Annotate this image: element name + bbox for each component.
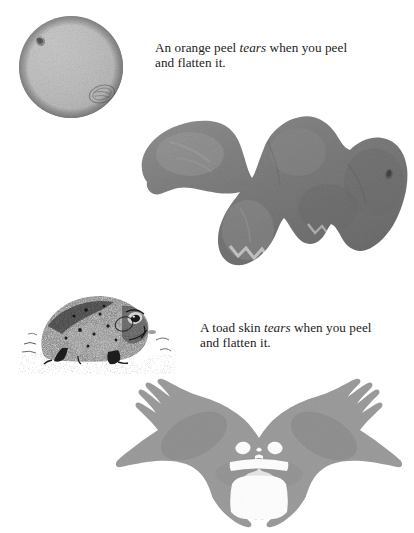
- orange-caption: An orange peel tears when you peel and f…: [155, 40, 347, 70]
- toad-caption-line2: and flatten it.: [200, 335, 271, 350]
- orange-caption-emphasis: tears: [240, 40, 267, 55]
- toad-body: [32, 290, 162, 368]
- flattened-toad-skin-image: [104, 378, 414, 530]
- orange-caption-prefix: An orange peel: [155, 40, 240, 55]
- toad-caption-suffix: when you peel: [291, 320, 372, 335]
- orange-caption-line2: and flatten it.: [155, 55, 226, 70]
- toad-caption: A toad skin tears when you peel and flat…: [200, 320, 372, 350]
- toad-caption-emphasis: tears: [264, 320, 291, 335]
- toad-skin-silhouette: [116, 379, 402, 527]
- whole-orange-image: [14, 12, 132, 120]
- orange-peel-body: [112, 112, 414, 270]
- orange-caption-suffix: when you peel: [266, 40, 347, 55]
- orange-body: [19, 16, 123, 118]
- toad-caption-prefix: A toad skin: [200, 320, 264, 335]
- toad-skin-belly-gap: [230, 476, 288, 520]
- toad-engraving-image: [18, 282, 178, 374]
- flattened-orange-peel-image: [112, 112, 414, 270]
- figure-page: An orange peel tears when you peel and f…: [0, 0, 414, 533]
